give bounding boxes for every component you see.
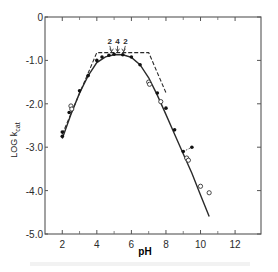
x-tick-label: 4 [94,239,100,250]
data-point-open [198,184,202,188]
arrowhead-icon [122,49,126,52]
x-tick-label: 10 [195,239,207,250]
arrowhead-icon [110,49,114,52]
annotation-label: 2 [123,37,128,46]
x-axis-label: pH [138,246,151,257]
y-axis-ticks: 0-1.0-2.0-3.0-4.0-5.0 [26,12,261,240]
data-point-filled [67,111,71,115]
x-tick-label: 12 [230,239,242,250]
data-point-open [207,191,211,195]
y-tick-label: -3.0 [26,142,44,153]
annotation-label: 4 [115,37,120,46]
plot-border [45,17,261,234]
data-point-filled [121,53,125,57]
x-tick-label: 6 [129,239,135,250]
data-point-open [147,82,151,86]
data-point-filled [60,135,64,139]
annotation-label: 2 [108,37,113,46]
data-point-filled [138,63,142,67]
svg-text:LOG kcat: LOG kcat [9,122,21,157]
data-point-open [159,100,163,104]
y-axis-label-main: LOG k [9,131,19,158]
chart-lines [62,53,209,217]
data-point-filled [60,130,64,134]
y-axis-label: LOG kcat [9,122,21,157]
data-point-filled [95,59,99,63]
dashed-asymptote-line [62,53,166,135]
data-point-filled [164,106,168,110]
data-point-filled [100,55,104,59]
y-axis-label-sub: cat [14,122,21,131]
data-point-filled [190,145,194,149]
figure-caption-faint [30,262,250,266]
y-tick-label: -2.0 [26,99,44,110]
y-tick-label: -5.0 [26,229,44,240]
data-point-filled [78,89,82,93]
data-point-filled [130,55,134,59]
chart: 24681012 0-1.0-2.0-3.0-4.0-5.0 242 pH LO… [0,0,278,272]
data-point-open [70,107,74,111]
data-point-filled [181,150,185,154]
x-axis-ticks: 24681012 [59,17,241,250]
y-tick-label: 0 [37,12,43,23]
data-point-filled [112,53,116,57]
y-tick-label: -1.0 [26,55,44,66]
plot-frame [45,17,261,234]
fitted-curve [62,55,209,217]
x-tick-label: 2 [59,239,65,250]
y-tick-label: -4.0 [26,186,44,197]
peak-annotations: 242 [108,37,129,52]
data-points [60,53,211,195]
data-point-filled [107,53,111,57]
data-point-filled [86,74,90,78]
data-point-open [186,158,190,162]
data-point-filled [173,128,177,132]
x-tick-label: 8 [163,239,169,250]
data-point-filled [156,91,160,95]
